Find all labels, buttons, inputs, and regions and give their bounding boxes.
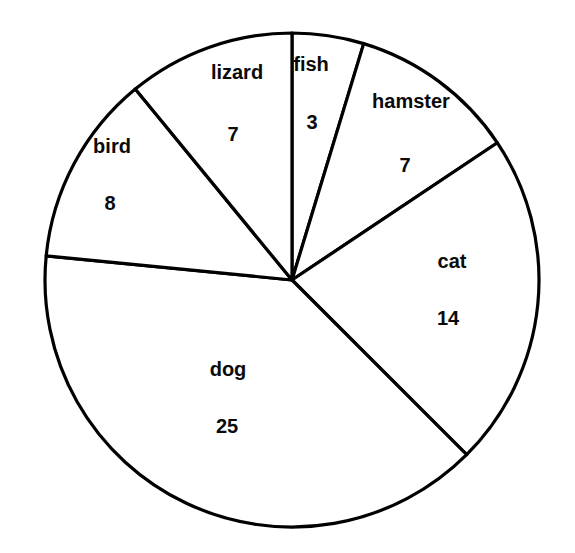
pie-slice-label-bird: bird	[93, 135, 131, 157]
pie-slices-group	[45, 33, 539, 527]
pie-slice-label-fish: fish	[293, 53, 329, 75]
pie-slice-value-cat: 14	[437, 307, 460, 329]
pie-chart: fish3hamster7cat14dog25bird8lizard7	[0, 0, 575, 553]
pie-slice-label-hamster: hamster	[372, 90, 450, 112]
pie-slice-value-hamster: 7	[399, 154, 410, 176]
pie-slice-value-bird: 8	[104, 192, 115, 214]
pie-slice-value-dog: 25	[216, 415, 238, 437]
pie-chart-canvas: fish3hamster7cat14dog25bird8lizard7	[0, 0, 575, 553]
pie-slice-value-lizard: 7	[227, 123, 238, 145]
pie-slice-value-fish: 3	[306, 111, 317, 133]
pie-slice-label-dog: dog	[210, 358, 247, 380]
pie-slice-label-lizard: lizard	[211, 61, 263, 83]
pie-slice-label-cat: cat	[438, 250, 467, 272]
